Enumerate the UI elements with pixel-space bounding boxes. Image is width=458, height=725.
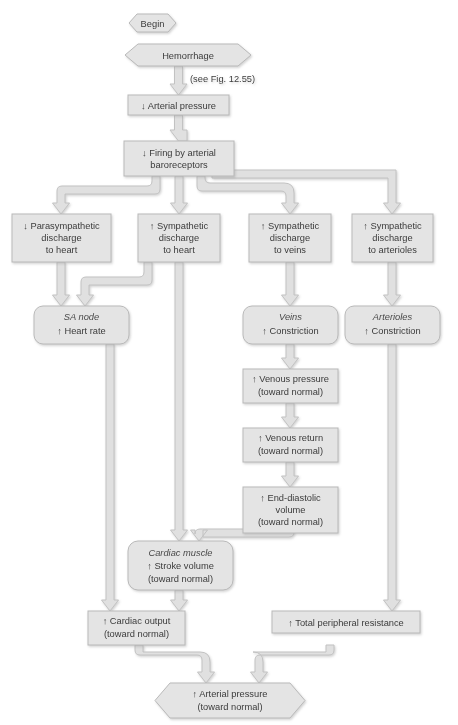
node-sympathetic-discharge-heart-line-0: ↑ Sympathetic — [150, 221, 209, 231]
node-baroreceptor-firing-line-0: ↓ Firing by arterial — [142, 148, 216, 158]
connector-arterial-down-to-baroreceptors — [170, 115, 187, 141]
connector-sym-heart-to-sa — [77, 262, 153, 306]
node-sympathetic-discharge-veins-line-2: to veins — [274, 245, 306, 255]
node-sa-node-line-0: SA node — [64, 312, 99, 322]
connector-veins-to-venous-pressure — [282, 344, 299, 369]
node-baroreceptor-firing[interactable]: ↓ Firing by arterial baroreceptors — [124, 141, 234, 176]
node-veins-line-0: Veins — [279, 312, 302, 322]
connector-baro-to-sym-veins — [197, 176, 299, 214]
node-end-diastolic-volume-line-2: (toward normal) — [258, 517, 323, 527]
node-sympathetic-discharge-heart-line-2: to heart — [163, 245, 195, 255]
node-sa-node-line-1: ↑ Heart rate — [57, 326, 106, 336]
node-total-peripheral-resistance-line-0: ↑ Total peripheral resistance — [288, 618, 404, 628]
connector-baro-to-sym-arterioles — [212, 170, 401, 214]
node-venous-pressure[interactable]: ↑ Venous pressure (toward normal) — [243, 369, 338, 403]
node-hemorrhage-line-0: Hemorrhage — [162, 51, 214, 61]
node-cardiac-muscle-stroke-volume-line-2: (toward normal) — [148, 574, 213, 584]
node-sa-node[interactable]: SA node ↑ Heart rate — [34, 306, 129, 344]
node-end-diastolic-volume-line-1: volume — [276, 505, 306, 515]
node-cardiac-muscle-stroke-volume-line-1: ↑ Stroke volume — [147, 561, 214, 571]
node-begin-line-0: Begin — [141, 19, 165, 29]
node-venous-return-line-1: (toward normal) — [258, 446, 323, 456]
node-venous-return-line-0: ↑ Venous return — [258, 433, 323, 443]
connector-sym-veins-to-veins — [282, 262, 299, 306]
node-venous-return[interactable]: ↑ Venous return (toward normal) — [243, 428, 338, 462]
connector-baro-to-sym-heart — [171, 176, 188, 214]
connector-sa-to-cardiac-output — [102, 344, 119, 611]
connector-arterioles-to-tpr — [384, 344, 401, 611]
node-begin[interactable]: Begin — [129, 14, 176, 32]
node-hemorrhage[interactable]: Hemorrhage — [125, 44, 251, 66]
node-layer: Begin Hemorrhage (see Fig. 12.55) ↓ Arte… — [12, 14, 440, 718]
node-parasympathetic-discharge-heart-line-0: ↓ Parasympathetic — [23, 221, 100, 231]
connector-cardiac-muscle-to-output — [171, 590, 188, 611]
node-sympathetic-discharge-arterioles-line-0: ↑ Sympathetic — [363, 221, 422, 231]
connector-hemorrhage-to-arterial-down — [170, 66, 187, 95]
node-cardiac-muscle-stroke-volume[interactable]: Cardiac muscle ↑ Stroke volume (toward n… — [128, 541, 233, 590]
node-sympathetic-discharge-arterioles-line-2: to arterioles — [368, 245, 417, 255]
node-arterioles[interactable]: Arterioles ↑ Constriction — [345, 306, 440, 344]
node-arterial-pressure-decrease[interactable]: ↓ Arterial pressure — [128, 95, 229, 115]
node-baroreceptor-firing-line-1: baroreceptors — [150, 160, 208, 170]
connector-tpr-to-arterial-up — [251, 645, 335, 683]
node-sympathetic-discharge-arterioles-line-1: discharge — [372, 233, 412, 243]
node-parasympathetic-discharge-heart-line-1: discharge — [41, 233, 81, 243]
node-arterial-pressure-increase[interactable]: ↑ Arterial pressure (toward normal) — [155, 683, 305, 718]
node-end-diastolic-volume[interactable]: ↑ End-diastolic volume (toward normal) — [243, 487, 338, 533]
node-sympathetic-discharge-heart-line-1: discharge — [159, 233, 199, 243]
node-cardiac-output[interactable]: ↑ Cardiac output (toward normal) — [88, 611, 185, 645]
node-parasympathetic-discharge-heart-line-2: to heart — [46, 245, 78, 255]
node-sympathetic-discharge-heart[interactable]: ↑ Sympathetic discharge to heart — [138, 214, 220, 262]
node-cardiac-output-line-1: (toward normal) — [104, 629, 169, 639]
connector-baro-to-parasym — [53, 176, 161, 214]
node-arterial-pressure-increase-line-0: ↑ Arterial pressure — [193, 689, 268, 699]
node-veins-line-1: ↑ Constriction — [262, 326, 318, 336]
node-end-diastolic-volume-line-0: ↑ End-diastolic — [260, 493, 321, 503]
node-veins[interactable]: Veins ↑ Constriction — [243, 306, 338, 344]
node-arterial-pressure-increase-line-1: (toward normal) — [197, 702, 262, 712]
connector-sym-art-to-arterioles — [384, 262, 401, 306]
connector-cardiac-output-to-arterial-up — [135, 645, 215, 683]
node-sympathetic-discharge-veins-line-1: discharge — [270, 233, 310, 243]
node-cardiac-output-line-0: ↑ Cardiac output — [103, 616, 171, 626]
connector-venous-pressure-to-venous-return — [282, 403, 299, 428]
node-venous-pressure-line-0: ↑ Venous pressure — [252, 374, 329, 384]
connector-sym-heart-to-cardiac-muscle — [171, 262, 188, 541]
connector-venous-return-to-edv — [282, 462, 299, 487]
node-venous-pressure-line-1: (toward normal) — [258, 387, 323, 397]
node-sympathetic-discharge-arterioles[interactable]: ↑ Sympathetic discharge to arterioles — [352, 214, 433, 262]
flowchart-canvas: Begin Hemorrhage (see Fig. 12.55) ↓ Arte… — [0, 0, 458, 725]
figure-reference-note: (see Fig. 12.55) — [190, 74, 255, 84]
node-arterioles-line-0: Arterioles — [372, 312, 413, 322]
node-sympathetic-discharge-veins[interactable]: ↑ Sympathetic discharge to veins — [249, 214, 331, 262]
node-parasympathetic-discharge-heart[interactable]: ↓ Parasympathetic discharge to heart — [12, 214, 111, 262]
node-arterial-pressure-decrease-line-0: ↓ Arterial pressure — [141, 101, 216, 111]
node-sympathetic-discharge-veins-line-0: ↑ Sympathetic — [261, 221, 320, 231]
node-total-peripheral-resistance[interactable]: ↑ Total peripheral resistance — [272, 611, 420, 633]
connector-parasym-to-sa — [53, 262, 70, 306]
flowchart-svg: Begin Hemorrhage (see Fig. 12.55) ↓ Arte… — [0, 0, 458, 725]
node-cardiac-muscle-stroke-volume-line-0: Cardiac muscle — [148, 548, 212, 558]
node-arterioles-line-1: ↑ Constriction — [364, 326, 420, 336]
